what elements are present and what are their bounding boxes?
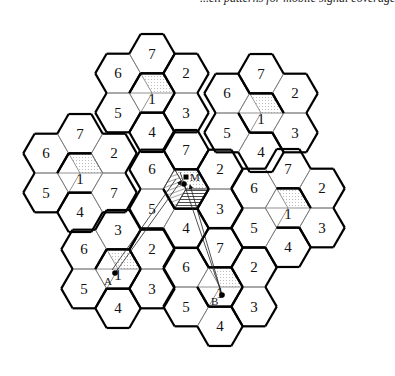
point-M-marker <box>184 175 189 180</box>
cell-label: 3 <box>318 220 326 236</box>
cell-label: 3 <box>250 299 258 315</box>
cell-label: 1 <box>257 111 265 127</box>
cell-label: 2 <box>110 145 118 161</box>
cell-label: 2 <box>291 85 299 101</box>
signal-ray <box>115 181 181 273</box>
cell-label: 2 <box>148 241 156 257</box>
cell-label: 3 <box>291 125 299 141</box>
cell-label: 6 <box>42 145 50 161</box>
cell-label: 2 <box>182 65 190 81</box>
point-label-A: A <box>104 275 112 287</box>
cell-label: 6 <box>114 65 122 81</box>
cell-label: 4 <box>76 204 84 220</box>
cell-label: 4 <box>182 220 190 236</box>
cell-label: 7 <box>182 142 190 158</box>
point-A-marker <box>112 270 118 276</box>
cell-label: 3 <box>182 105 190 121</box>
cell-label: 5 <box>182 299 190 315</box>
cell-label: 6 <box>148 161 156 177</box>
cell-label: 7 <box>257 66 265 82</box>
cell-label: 4 <box>148 124 156 140</box>
cell-label: 6 <box>80 241 88 257</box>
cell-label: 3 <box>148 281 156 297</box>
cell-label: 5 <box>223 125 231 141</box>
cell-label: 3 <box>114 222 122 238</box>
cell-label: 1 <box>76 171 84 187</box>
cell-label: 7 <box>110 185 118 201</box>
cell-label: 1 <box>284 206 292 222</box>
cell-label: 2 <box>216 161 224 177</box>
cell-label: 7 <box>216 240 224 256</box>
cell-label: 2 <box>250 259 258 275</box>
cell-label: 5 <box>80 281 88 297</box>
cell-label: 6 <box>223 85 231 101</box>
cell-label: 5 <box>250 220 258 236</box>
cell-label: 2 <box>318 180 326 196</box>
cell-label: 7 <box>76 126 84 142</box>
cell-label: 5 <box>114 105 122 121</box>
dotted-sector <box>69 153 103 173</box>
cell-label: 5 <box>148 201 156 217</box>
cell-label: 5 <box>42 185 50 201</box>
cell-label: 4 <box>284 239 292 255</box>
point-B-marker <box>219 292 225 298</box>
cell-label: 6 <box>182 259 190 275</box>
cell-label: 6 <box>250 180 258 196</box>
cell-label: 4 <box>216 318 224 334</box>
point-label-B: B <box>211 295 218 307</box>
point-center-dot-marker <box>181 181 187 187</box>
cell-label: 7 <box>284 161 292 177</box>
cell-label: 3 <box>216 201 224 217</box>
cell-label: 7 <box>148 46 156 62</box>
point-label-M: M <box>190 171 200 183</box>
cell-label: 4 <box>257 144 265 160</box>
cell-label: 4 <box>114 300 122 316</box>
cell-label: 1 <box>148 91 156 107</box>
